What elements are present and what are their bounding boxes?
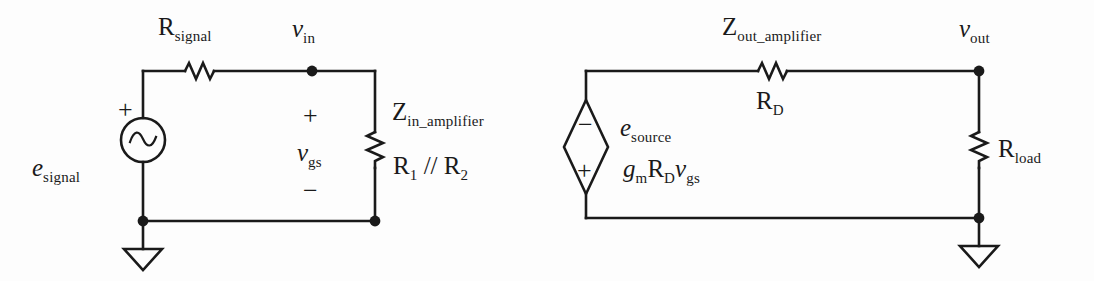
z-in-amplifier-resistor-icon	[367, 132, 383, 168]
circuit-schematic-canvas	[0, 0, 1094, 281]
label-r-d-series: RD	[756, 88, 784, 113]
label-e-signal: esignal	[32, 155, 80, 180]
circuit-diagram-figure: Rsignal vin + esignal + vgs − Zin_amplif…	[0, 0, 1094, 281]
label-v-out-sub: out	[970, 30, 990, 46]
label-v-in-base: v	[292, 15, 303, 42]
label-v-gs: vgs	[297, 140, 322, 165]
label-z-out-amplifier: Zout_amplifier	[722, 14, 822, 39]
label-e-source-sub: source	[631, 129, 671, 145]
label-v-out-base: v	[959, 15, 970, 42]
r-load-resistor-icon	[971, 132, 987, 168]
label-r1-sub: 1	[410, 167, 418, 183]
label-vgs-base: v	[675, 155, 686, 182]
output-ground-icon	[960, 246, 998, 267]
label-v-in-sub: in	[303, 30, 315, 46]
label-parallel-operator: //	[417, 152, 443, 179]
label-z-in-amplifier-base: Z	[392, 98, 407, 125]
input-ground-icon	[124, 249, 162, 270]
node-dot-input-ground	[138, 216, 149, 227]
label-gm-base: g	[623, 155, 636, 182]
label-z-out-amplifier-base: Z	[722, 13, 737, 40]
dependent-source-minus-sign: −	[578, 112, 593, 138]
label-vgs-sub: gs	[686, 170, 700, 186]
label-r-d-series-base: R	[756, 87, 773, 114]
label-r1-base: R	[393, 152, 410, 179]
label-r2-sub: 2	[460, 167, 468, 183]
label-rd-sub: D	[664, 170, 675, 186]
label-r-signal-base: R	[158, 13, 175, 40]
node-dot-output-ground	[974, 213, 985, 224]
r-signal-resistor-icon	[185, 63, 214, 79]
dependent-source-plus-sign: +	[577, 158, 592, 184]
label-z-in-amplifier: Zin_amplifier	[392, 99, 484, 124]
label-e-signal-sub: signal	[43, 169, 80, 185]
node-dot-input-bottom-right	[370, 216, 381, 227]
label-r-load-base: R	[998, 135, 1015, 162]
z-out-amplifier-resistor-icon	[758, 63, 787, 79]
node-dot-vin	[307, 66, 318, 77]
label-rd-base: R	[647, 155, 664, 182]
label-v-in: vin	[292, 16, 315, 41]
label-gm-rd-vgs: gmRDvgs	[623, 156, 700, 181]
label-v-out: vout	[959, 16, 990, 41]
label-gm-sub: m	[636, 170, 648, 186]
label-z-out-amplifier-sub: out_amplifier	[737, 28, 821, 44]
input-source-plus-sign: +	[118, 97, 133, 123]
label-r1-parallel-r2: R1 // R2	[393, 153, 468, 178]
sine-wave-icon	[130, 133, 156, 146]
label-r2-base: R	[444, 152, 461, 179]
label-v-gs-base: v	[297, 139, 308, 166]
label-r-signal-sub: signal	[175, 28, 212, 44]
label-z-in-amplifier-sub: in_amplifier	[407, 113, 484, 129]
label-v-gs-sub: gs	[308, 154, 322, 170]
label-r-d-series-sub: D	[773, 102, 784, 118]
label-e-source-base: e	[620, 114, 631, 141]
label-e-source: esource	[620, 115, 671, 140]
node-dot-vout	[974, 66, 985, 77]
vgs-minus-sign: −	[303, 178, 318, 204]
vgs-plus-sign: +	[303, 103, 318, 129]
label-r-load: Rload	[998, 136, 1041, 161]
label-r-signal: Rsignal	[158, 14, 212, 39]
label-r-load-sub: load	[1015, 150, 1042, 166]
label-e-signal-base: e	[32, 154, 43, 181]
